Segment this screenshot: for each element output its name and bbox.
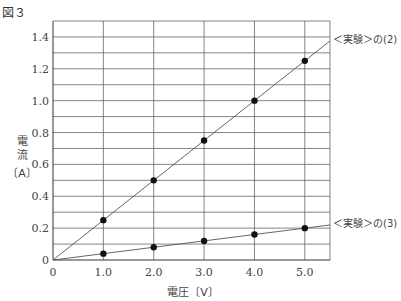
data-point [151, 244, 157, 250]
data-point [302, 225, 308, 231]
x-tick-label: 5.0 [296, 266, 314, 279]
series-line [53, 225, 330, 260]
x-tick-label: 4.0 [246, 266, 264, 279]
y-tick-label: 1.4 [32, 31, 50, 44]
x-tick-label: 0 [50, 266, 57, 279]
data-point [201, 238, 207, 244]
data-point [201, 137, 207, 143]
y-tick-label: 1.0 [32, 95, 50, 108]
x-tick-label: 1.0 [95, 266, 113, 279]
y-tick-label: 0.2 [32, 222, 50, 235]
series-lines [53, 41, 330, 260]
data-point [251, 97, 257, 103]
y-tick-label: 0 [42, 254, 49, 267]
y-axis-title-part: 電 [17, 135, 28, 148]
data-point [100, 250, 106, 256]
y-axis-title-part: 〔A〕 [7, 167, 37, 180]
y-tick-label: 0.8 [32, 127, 50, 140]
y-tick-label: 0.4 [32, 190, 50, 203]
x-axis-title: 電圧〔V〕 [167, 286, 219, 299]
axes [53, 21, 330, 260]
grid [53, 21, 330, 260]
data-point [100, 217, 106, 223]
series-label: ＜実験＞の(3) [333, 217, 397, 229]
series-line [53, 41, 330, 260]
series-labels: ＜実験＞の(2)＜実験＞の(3) [333, 33, 397, 229]
tick-labels: 01.02.03.04.05.000.20.40.60.81.01.21.4 [32, 31, 314, 279]
series-label: ＜実験＞の(2) [333, 33, 397, 45]
data-point [302, 58, 308, 64]
x-tick-label: 2.0 [145, 266, 163, 279]
y-tick-label: 1.2 [32, 63, 50, 76]
x-tick-label: 3.0 [195, 266, 213, 279]
current-voltage-chart: 01.02.03.04.05.000.20.40.60.81.01.21.4 電… [0, 0, 401, 301]
y-axis-title-part: 流 [17, 148, 28, 162]
data-point [151, 177, 157, 183]
data-point [251, 231, 257, 237]
